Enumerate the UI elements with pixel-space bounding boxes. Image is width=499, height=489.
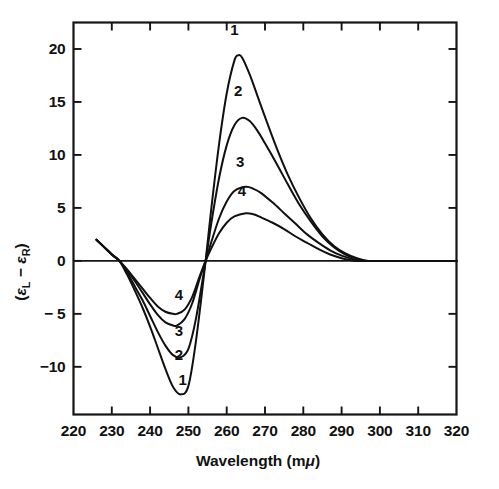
y-tick-label: 0 [57,252,65,269]
xlabel-tail: ) [315,452,320,469]
ylabel-close: ) [12,243,29,248]
x-tick-label: 320 [444,422,469,439]
figure-page: 220230240250260270280290300310320 −10− 5… [0,0,499,489]
x-tick-labels: 220230240250260270280290300310320 [61,422,469,439]
curve-label-4: 4 [238,182,247,199]
x-tick-label: 250 [176,422,201,439]
curve-4 [96,213,456,314]
x-axis-title: Wavelength (mμ) [196,452,320,469]
curve-2 [96,118,456,358]
svg-text:Wavelength (mμ): Wavelength (mμ) [196,452,320,469]
y-tick-label: 15 [49,93,66,110]
x-tick-label: 270 [252,422,277,439]
x-tick-label: 230 [99,422,124,439]
x-tick-label: 310 [406,422,431,439]
ylabel-minus: − [12,264,29,282]
curve-number-labels: 12344321 [175,21,247,388]
x-tick-label: 290 [329,422,354,439]
curve-label-3: 3 [175,322,183,339]
curve-label-1: 1 [230,21,238,38]
curve-label-4: 4 [175,286,184,303]
curve-label-1: 1 [178,371,186,388]
y-tick-label: − 5 [44,305,66,322]
y-tick-label: 10 [49,146,66,163]
y-axis-title: (εL − εR) [12,243,32,301]
x-tick-label: 240 [137,422,162,439]
y-tick-label: −10 [40,358,66,375]
x-tick-label: 220 [61,422,86,439]
x-tick-label: 260 [214,422,239,439]
x-tick-label: 280 [291,422,316,439]
curve-label-3: 3 [236,153,244,170]
data-curves [96,55,456,394]
y-tick-label: 5 [57,199,66,216]
curve-3 [96,187,456,326]
cd-spectrum-chart: 220230240250260270280290300310320 −10− 5… [0,0,499,489]
x-tick-label: 300 [367,422,392,439]
curve-label-2: 2 [175,346,183,363]
xlabel-mu: μ [305,452,316,469]
y-tick-label: 20 [49,40,66,57]
ylabel-sub-r: R [20,248,32,256]
y-tick-labels: −10− 505101520 [40,40,66,375]
curve-label-2: 2 [234,82,242,99]
svg-text:(εL − εR): (εL − εR) [12,243,32,301]
xlabel-main: Wavelength (m [196,452,306,469]
